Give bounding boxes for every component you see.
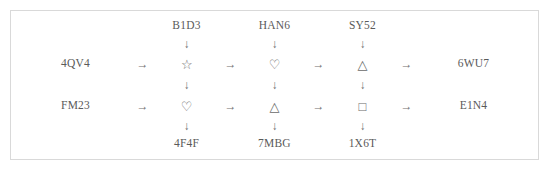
down-arrow-bottom-2: ↓: [272, 118, 278, 134]
down-arrow-top-2: ↓: [272, 36, 278, 52]
star-icon: ☆: [181, 58, 193, 71]
heart-icon: ♡: [181, 100, 193, 113]
grid-spacer: [122, 76, 164, 94]
grid-spacer: [386, 16, 428, 36]
right-arrow-row2-1: →: [122, 100, 164, 112]
right-label-row1: 6WU7: [458, 58, 489, 70]
heart-icon: ♡: [269, 58, 281, 71]
down-arrow-mid-2: ↓: [272, 76, 278, 94]
top-label-1: B1D3: [172, 20, 200, 32]
flow-diagram-grid: B1D3 HAN6 SY52 ↓ ↓ ↓ 4QV4 → ☆ → ♡ → △ → …: [11, 11, 538, 159]
grid-spacer: [428, 76, 520, 94]
grid-spacer: [210, 118, 252, 134]
grid-spacer: [428, 36, 520, 52]
bottom-label-2: 7MBG: [258, 138, 291, 150]
grid-spacer: [386, 134, 428, 154]
grid-spacer: [122, 134, 164, 154]
down-arrow-mid-1: ↓: [184, 76, 190, 94]
grid-spacer: [30, 118, 122, 134]
grid-spacer: [428, 16, 520, 36]
grid-spacer: [30, 76, 122, 94]
right-arrow-row1-4: →: [386, 58, 428, 70]
grid-spacer: [210, 16, 252, 36]
grid-spacer: [210, 134, 252, 154]
down-arrow-bottom-3: ↓: [360, 118, 366, 134]
grid-spacer: [386, 76, 428, 94]
down-arrow-top-1: ↓: [184, 36, 190, 52]
right-arrow-row1-2: →: [210, 58, 252, 70]
grid-spacer: [386, 118, 428, 134]
right-arrow-row2-4: →: [386, 100, 428, 112]
grid-spacer: [30, 134, 122, 154]
right-arrow-row1-3: →: [298, 58, 340, 70]
grid-spacer: [428, 118, 520, 134]
right-arrow-row2-3: →: [298, 100, 340, 112]
triangle-icon: △: [270, 100, 280, 113]
triangle-icon: △: [358, 58, 368, 71]
grid-spacer: [428, 134, 520, 154]
top-label-2: HAN6: [259, 20, 290, 32]
grid-spacer: [210, 76, 252, 94]
grid-spacer: [30, 16, 122, 36]
grid-spacer: [210, 36, 252, 52]
grid-spacer: [298, 36, 340, 52]
grid-spacer: [298, 76, 340, 94]
down-arrow-top-3: ↓: [360, 36, 366, 52]
right-arrow-row2-2: →: [210, 100, 252, 112]
grid-spacer: [298, 118, 340, 134]
grid-spacer: [122, 36, 164, 52]
left-label-row2: FM23: [61, 100, 90, 112]
square-icon: □: [359, 100, 367, 113]
grid-spacer: [122, 118, 164, 134]
bottom-label-3: 1X6T: [349, 138, 377, 150]
right-arrow-row1-1: →: [122, 58, 164, 70]
grid-spacer: [122, 16, 164, 36]
grid-spacer: [30, 36, 122, 52]
grid-spacer: [298, 134, 340, 154]
grid-spacer: [386, 36, 428, 52]
right-label-row2: E1N4: [460, 100, 488, 112]
top-label-3: SY52: [349, 20, 376, 32]
figure-frame: B1D3 HAN6 SY52 ↓ ↓ ↓ 4QV4 → ☆ → ♡ → △ → …: [10, 10, 539, 160]
down-arrow-mid-3: ↓: [360, 76, 366, 94]
left-label-row1: 4QV4: [61, 58, 90, 70]
bottom-label-1: 4F4F: [174, 138, 199, 150]
down-arrow-bottom-1: ↓: [184, 118, 190, 134]
grid-spacer: [298, 16, 340, 36]
